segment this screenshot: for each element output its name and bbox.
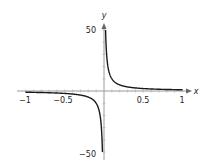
x-tick-label-neg1: −1: [19, 96, 31, 105]
curve-right-branch: [106, 30, 183, 90]
x-axis-label: x: [193, 87, 199, 96]
chart: x y −1 −0.5 0.5 1 50 −50: [0, 0, 206, 167]
x-axis-arrow-icon: [186, 89, 192, 94]
y-tick-label-neg50: −50: [79, 150, 96, 159]
x-tick-label-neg05: −0.5: [53, 96, 72, 105]
y-tick-label-pos50: 50: [86, 26, 96, 35]
y-axis-arrow-icon: [102, 23, 107, 29]
x-tick-label-pos05: 0.5: [137, 96, 150, 105]
x-tick-label-pos1: 1: [179, 96, 184, 105]
y-axis-label: y: [101, 11, 107, 20]
